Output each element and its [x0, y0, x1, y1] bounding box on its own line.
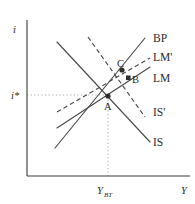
point-a-marker — [105, 93, 110, 98]
label-x-tick-ybt-main: Y — [97, 185, 104, 196]
label-x-tick-ybt-sub: BT — [104, 191, 113, 199]
label-lm-prime: LM' — [153, 51, 172, 63]
label-is: IS — [153, 136, 163, 148]
curve-is — [57, 42, 150, 142]
label-x-axis: Y — [181, 185, 188, 196]
point-b-marker — [126, 76, 131, 81]
label-y-tick-istar: i* — [11, 90, 20, 101]
label-bp: BP — [153, 32, 167, 44]
label-point-a: A — [104, 101, 112, 112]
label-point-c: C — [117, 58, 124, 69]
isl m-bp-figure: BP LM' LM IS' IS A B C i Y i* Y BT — [0, 0, 195, 204]
label-y-axis: i — [13, 24, 16, 35]
chart-canvas: BP LM' LM IS' IS A B C i Y i* Y BT — [0, 0, 195, 204]
label-is-prime: IS' — [153, 106, 165, 118]
label-point-b: B — [132, 74, 139, 85]
label-lm: LM — [153, 72, 170, 84]
